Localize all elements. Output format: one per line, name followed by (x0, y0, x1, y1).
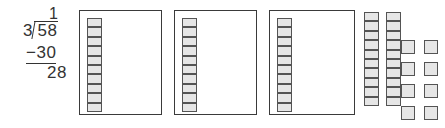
rod-unit (182, 84, 197, 93)
unit-cube (401, 40, 415, 54)
rod-unit (386, 21, 401, 30)
rod-unit (364, 12, 379, 21)
rod-unit (386, 87, 401, 96)
loose-unit-cubes-grid (401, 40, 438, 120)
rod-unit (182, 65, 197, 74)
rod-unit (277, 93, 292, 102)
group-box-2 (174, 10, 257, 115)
rod-unit (364, 97, 379, 106)
unit-cube (424, 40, 438, 54)
rod-unit (386, 50, 401, 59)
unit-cube (424, 62, 438, 76)
rod-unit (87, 103, 102, 112)
rod-unit (386, 59, 401, 68)
rod-unit (87, 37, 102, 46)
rod-unit (364, 78, 379, 87)
rod-unit (277, 27, 292, 36)
group-box-1 (79, 10, 162, 115)
ten-rod-in-group-1 (87, 18, 102, 112)
rod-unit (87, 84, 102, 93)
loose-ten-rod-2 (386, 12, 401, 106)
ten-rod-in-group-3 (277, 18, 292, 112)
rod-unit (364, 31, 379, 40)
rod-unit (386, 40, 401, 49)
unit-cube (401, 84, 415, 98)
rod-unit (386, 31, 401, 40)
rod-unit (182, 103, 197, 112)
division-main-row: 3 58 (23, 22, 57, 39)
division-bracket-icon: 58 (33, 22, 57, 39)
rod-unit (182, 74, 197, 83)
rod-unit (182, 46, 197, 55)
rod-unit (87, 93, 102, 102)
long-division-problem: 1 3 58 −30 28 (18, 6, 76, 76)
unit-cube (401, 62, 415, 76)
rod-unit (364, 21, 379, 30)
loose-ten-rod-1 (364, 12, 379, 106)
rod-unit (182, 93, 197, 102)
rod-unit (386, 12, 401, 21)
rod-unit (277, 46, 292, 55)
rod-unit (277, 84, 292, 93)
rod-unit (277, 56, 292, 65)
rod-unit (386, 78, 401, 87)
rod-unit (386, 68, 401, 77)
division-remainder: 28 (47, 64, 67, 81)
unit-cube (424, 106, 438, 120)
rod-unit (182, 56, 197, 65)
rod-unit (87, 65, 102, 74)
rod-unit (87, 74, 102, 83)
division-quotient: 1 (49, 6, 71, 22)
rod-unit (182, 37, 197, 46)
rod-unit (87, 27, 102, 36)
unit-cube (401, 106, 415, 120)
rod-unit (364, 59, 379, 68)
rod-unit (182, 27, 197, 36)
rod-unit (277, 103, 292, 112)
rod-unit (87, 46, 102, 55)
rod-unit (386, 97, 401, 106)
rod-unit (277, 65, 292, 74)
rod-unit (277, 74, 292, 83)
unit-cube (424, 84, 438, 98)
rod-unit (277, 37, 292, 46)
rod-unit (364, 50, 379, 59)
rod-unit (87, 18, 102, 27)
rod-unit (87, 56, 102, 65)
ten-rod-in-group-2 (182, 18, 197, 112)
rod-unit (364, 40, 379, 49)
worksheet-canvas: 1 3 58 −30 28 (0, 0, 445, 128)
rod-unit (277, 18, 292, 27)
rod-unit (364, 87, 379, 96)
rod-unit (182, 18, 197, 27)
group-box-3 (269, 10, 355, 115)
division-dividend: 58 (37, 21, 57, 40)
rod-unit (364, 68, 379, 77)
division-subtrahend: −30 (26, 44, 56, 64)
